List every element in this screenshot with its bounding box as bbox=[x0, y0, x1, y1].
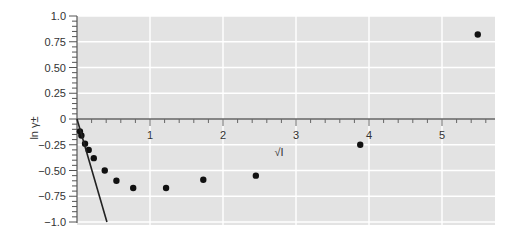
y-tick-label: −0.50 bbox=[38, 165, 66, 177]
data-point bbox=[102, 167, 108, 173]
x-tick-label: 1 bbox=[147, 129, 153, 141]
data-point bbox=[475, 31, 481, 37]
y-tick-label: −0.25 bbox=[38, 139, 66, 151]
x-axis-title: √I bbox=[274, 146, 283, 158]
data-point bbox=[200, 177, 206, 183]
y-tick-label: 0.25 bbox=[45, 87, 66, 99]
chart: 1.00.750.500.250−0.25−0.50−0.75−1.0 1234… bbox=[0, 0, 508, 234]
y-tick-label: −0.75 bbox=[38, 190, 66, 202]
x-tick-label: 2 bbox=[220, 129, 226, 141]
data-point bbox=[91, 155, 97, 161]
x-tick-label: 3 bbox=[293, 129, 299, 141]
data-point bbox=[113, 178, 119, 184]
x-tick-label: 4 bbox=[366, 129, 372, 141]
plot-background bbox=[77, 16, 495, 225]
data-point bbox=[253, 172, 259, 178]
y-tick-label: −1.0 bbox=[44, 216, 66, 228]
y-tick-label: 1.0 bbox=[51, 10, 66, 22]
y-tick-label: 0.50 bbox=[45, 62, 66, 74]
y-tick-label: 0.75 bbox=[45, 36, 66, 48]
x-tick-label: 5 bbox=[439, 129, 445, 141]
y-axis-title: ln γ± bbox=[28, 116, 40, 139]
data-point bbox=[130, 185, 136, 191]
data-point bbox=[357, 142, 363, 148]
data-point bbox=[163, 185, 169, 191]
y-tick-label: 0 bbox=[60, 113, 66, 125]
y-axis: 1.00.750.500.250−0.25−0.50−0.75−1.0 bbox=[38, 10, 77, 228]
